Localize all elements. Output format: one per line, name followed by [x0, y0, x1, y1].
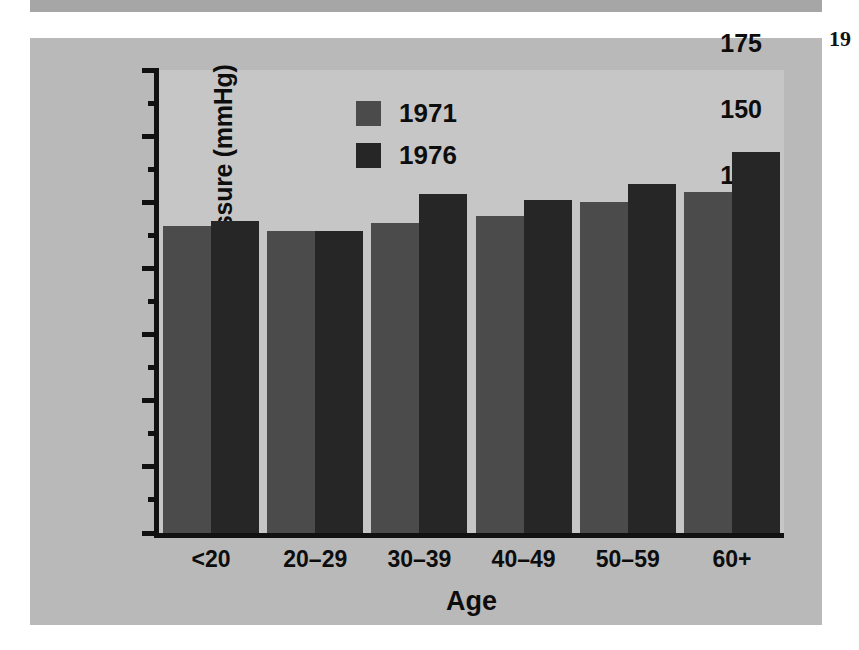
y-axis-minor-tick — [148, 431, 159, 436]
bar-1976-30–39 — [419, 194, 467, 533]
legend-swatch-1971 — [356, 101, 381, 126]
bar-1971-40–49 — [476, 216, 524, 533]
legend-swatch-1976 — [356, 143, 381, 168]
bar-1976-50–59 — [628, 184, 676, 533]
x-axis-tick-label: 60+ — [712, 546, 751, 573]
bar-1971-20–29 — [267, 231, 315, 533]
bar-1971-50–59 — [580, 202, 628, 533]
y-axis-tick-label: 175 — [720, 28, 762, 57]
x-axis-tick-label: 40–49 — [492, 546, 556, 573]
y-axis-minor-tick — [148, 365, 159, 370]
bars-layer — [159, 70, 784, 533]
y-axis-tick — [142, 464, 159, 469]
x-axis-title: Age — [159, 586, 784, 617]
y-axis-minor-tick — [148, 101, 159, 106]
y-axis-minor-tick — [148, 167, 159, 172]
y-axis-tick — [142, 134, 159, 139]
legend-label-1976: 1976 — [399, 140, 457, 171]
legend-label-1971: 1971 — [399, 98, 457, 129]
y-axis-tick — [142, 266, 159, 271]
x-axis-tick-label: 50–59 — [596, 546, 660, 573]
y-axis-minor-tick — [148, 299, 159, 304]
y-axis-minor-tick — [148, 233, 159, 238]
figure-panel: Systolic Blood Pressure (mmHg) 025507510… — [30, 38, 822, 625]
y-axis-tick — [142, 531, 159, 536]
bar-1971-60+ — [684, 192, 732, 533]
y-axis-tick — [142, 332, 159, 337]
legend-item-1971: 1971 — [356, 92, 457, 134]
y-axis-tick — [142, 68, 159, 73]
x-axis-tick-label: <20 — [192, 546, 231, 573]
bar-1971-30–39 — [371, 223, 419, 533]
y-axis-tick — [142, 200, 159, 205]
bar-group — [684, 70, 780, 533]
y-axis-minor-tick — [148, 497, 159, 502]
bar-1976-40–49 — [524, 200, 572, 533]
bar-group — [476, 70, 572, 533]
legend-item-1976: 1976 — [356, 134, 457, 176]
plot-area: Systolic Blood Pressure (mmHg) 025507510… — [154, 70, 784, 538]
x-axis-tick-label: 30–39 — [387, 546, 451, 573]
y-axis-tick — [142, 398, 159, 403]
bar-1976-20–29 — [315, 231, 363, 533]
bar-1971-<20 — [163, 226, 211, 533]
top-decorative-strip — [30, 0, 822, 12]
bar-1976-<20 — [211, 221, 259, 533]
bar-group — [163, 70, 259, 533]
bar-group — [267, 70, 363, 533]
chart-legend: 19711976 — [356, 92, 457, 176]
bar-1976-60+ — [732, 152, 780, 533]
bar-group — [580, 70, 676, 533]
x-axis-tick-label: 20–29 — [283, 546, 347, 573]
page-number: 19 — [829, 26, 851, 52]
